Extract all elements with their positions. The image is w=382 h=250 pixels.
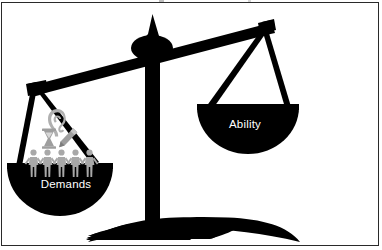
balance-scale-illustration <box>0 0 382 250</box>
figure-root: Demands Ability <box>0 0 382 250</box>
right-pan-label: Ability <box>197 118 293 130</box>
scale-post <box>129 45 176 228</box>
left-pan-label: Demands <box>18 178 114 190</box>
